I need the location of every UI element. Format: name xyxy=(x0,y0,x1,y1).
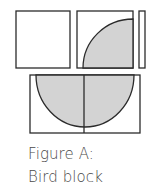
thin-strip xyxy=(139,11,145,68)
bird-block-diagram xyxy=(0,0,151,140)
caption-subtitle: Bird block xyxy=(28,166,103,189)
figure-caption: Figure A: Bird block xyxy=(28,143,103,189)
caption-title: Figure A: xyxy=(28,143,103,166)
plain-square xyxy=(16,11,70,68)
